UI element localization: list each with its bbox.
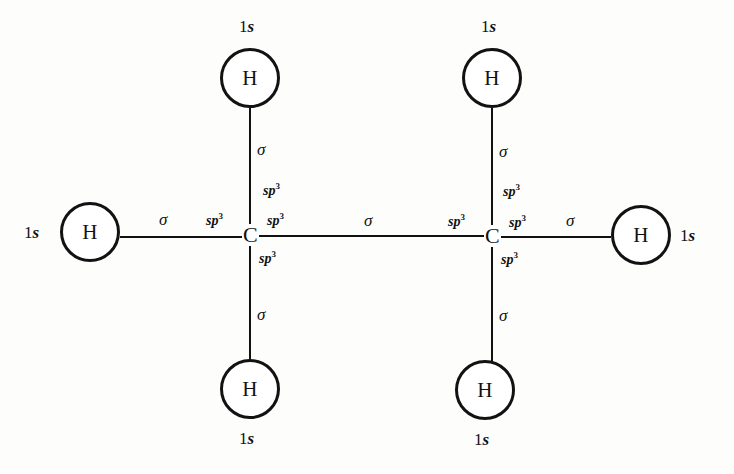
- atom-h-top-left[interactable]: H: [220, 48, 280, 108]
- sp-exponent: 3: [279, 211, 284, 221]
- orbital-1s-prefix: 1: [239, 17, 248, 36]
- orbital-1s-suffix: s: [248, 17, 255, 36]
- sp-base: sp: [263, 183, 275, 198]
- orbital-label-1s-h-bottom-left: 1s: [239, 430, 254, 447]
- orbital-label-sp3-c-left-down: sp3: [258, 252, 277, 266]
- bond-c-right-h-right: [500, 236, 611, 238]
- sp-base: sp: [448, 214, 460, 229]
- atom-h-bottom-right[interactable]: H: [455, 360, 515, 420]
- atom-h-bottom-left[interactable]: H: [220, 359, 280, 419]
- bond-label-sigma-c-right-h-top: σ: [499, 143, 507, 160]
- sp-base: sp: [267, 213, 279, 228]
- bond-label-sigma-c-left-h-bottom: σ: [257, 306, 265, 323]
- sp-base: sp: [206, 213, 218, 228]
- orbital-label-1s-h-bottom-right: 1s: [474, 431, 489, 448]
- sp-base: sp: [509, 215, 521, 230]
- orbital-label-1s-h-right: 1s: [680, 227, 695, 244]
- orbital-label-sp3-c-right-up: sp3: [502, 185, 521, 199]
- orbital-1s-prefix: 1: [24, 223, 33, 242]
- orbital-1s-suffix: s: [248, 429, 255, 448]
- bond-c-left-h-bottom: [249, 238, 251, 360]
- bond-c-left-h-left: [120, 236, 250, 238]
- atom-label-h: H: [242, 68, 258, 89]
- orbital-label-sp3-c-left-left: sp3: [205, 214, 224, 228]
- orbital-1s-prefix: 1: [474, 430, 483, 449]
- atom-c-right[interactable]: C: [484, 225, 501, 247]
- sp-base: sp: [501, 252, 513, 267]
- sp-exponent: 3: [515, 182, 520, 192]
- atom-label-h: H: [82, 222, 98, 243]
- bond-label-sigma-c-left-h-left: σ: [159, 211, 167, 228]
- bond-label-sigma-c-left-h-top: σ: [257, 141, 265, 158]
- atom-h-right[interactable]: H: [611, 205, 671, 265]
- sp-exponent: 3: [521, 213, 526, 223]
- orbital-label-sp3-c-right-right: sp3: [508, 216, 527, 230]
- orbital-label-sp3-c-right-left: sp3: [447, 215, 466, 229]
- orbital-1s-suffix: s: [490, 17, 497, 36]
- orbital-1s-suffix: s: [33, 223, 40, 242]
- atom-h-left[interactable]: H: [60, 202, 120, 262]
- sigma-glyph: σ: [159, 210, 167, 229]
- sigma-glyph: σ: [257, 140, 265, 159]
- atom-label-c: C: [485, 223, 500, 248]
- atom-label-h: H: [242, 379, 258, 400]
- bond-label-sigma-c-c: σ: [364, 212, 372, 229]
- sigma-glyph: σ: [566, 211, 574, 230]
- atom-label-h: H: [633, 225, 649, 246]
- sp-exponent: 3: [513, 250, 518, 260]
- orbital-label-sp3-c-right-down: sp3: [500, 253, 519, 267]
- sp-exponent: 3: [275, 181, 280, 191]
- orbital-label-sp3-c-left-up: sp3: [262, 184, 281, 198]
- orbital-1s-prefix: 1: [481, 17, 490, 36]
- bond-c-right-h-bottom: [491, 239, 493, 361]
- orbital-1s-prefix: 1: [680, 226, 689, 245]
- orbital-label-sp3-c-left-right: sp3: [266, 214, 285, 228]
- atom-label-h: H: [484, 68, 500, 89]
- bond-c-c: [259, 235, 493, 237]
- atom-label-c: C: [243, 222, 258, 247]
- orbital-label-1s-h-top-right: 1s: [481, 18, 496, 35]
- orbital-label-1s-h-left: 1s: [24, 224, 39, 241]
- orbital-1s-suffix: s: [483, 430, 490, 449]
- sp-exponent: 3: [460, 212, 465, 222]
- bond-label-sigma-c-right-h-bottom: σ: [499, 307, 507, 324]
- sigma-glyph: σ: [499, 306, 507, 325]
- atom-label-h: H: [477, 380, 493, 401]
- sp-base: sp: [259, 251, 271, 266]
- sigma-glyph: σ: [364, 211, 372, 230]
- sigma-glyph: σ: [257, 305, 265, 324]
- bond-c-right-h-top: [491, 108, 493, 238]
- sigma-glyph: σ: [499, 142, 507, 161]
- sp-base: sp: [503, 184, 515, 199]
- orbital-1s-prefix: 1: [239, 429, 248, 448]
- sp-exponent: 3: [218, 211, 223, 221]
- atom-c-left[interactable]: C: [242, 224, 259, 246]
- orbital-1s-suffix: s: [689, 226, 696, 245]
- orbital-label-1s-h-top-left: 1s: [239, 18, 254, 35]
- atom-h-top-right[interactable]: H: [462, 48, 522, 108]
- bond-label-sigma-c-right-h-right: σ: [566, 212, 574, 229]
- molecular-diagram-canvas: H H H H H H C C 1s 1s 1s 1s 1s 1s σ σ: [0, 0, 734, 474]
- sp-exponent: 3: [271, 249, 276, 259]
- bond-c-left-h-top: [249, 108, 251, 236]
